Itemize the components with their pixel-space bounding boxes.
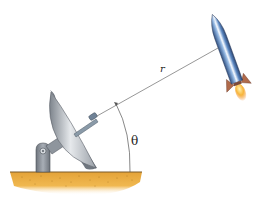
rocket [200, 10, 256, 105]
label-r: r [160, 63, 166, 74]
line-of-sight [97, 48, 218, 116]
label-theta: θ [131, 134, 138, 148]
ground [10, 172, 142, 195]
satellite-dish [50, 90, 98, 170]
arc-arrow-icon [114, 102, 118, 106]
radar-rocket-diagram: r θ [0, 0, 263, 202]
angle-arc [116, 104, 130, 172]
